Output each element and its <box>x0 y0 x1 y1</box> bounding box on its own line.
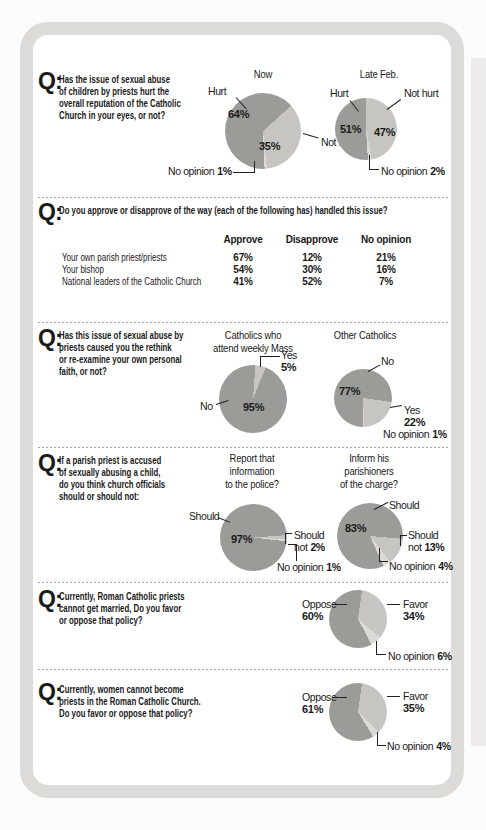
pie-mass-value-yes: 5% <box>281 361 296 373</box>
pie-latefeb-value-nothurt: 47% <box>374 126 395 138</box>
q4-text: If a parish priest is accused of sexuall… <box>59 455 165 503</box>
q3-line: Has this issue of sexual abuse by <box>59 330 183 342</box>
no-opinion-value: 1% <box>217 165 231 177</box>
pie-inform-title-line: Inform his <box>322 452 416 465</box>
pie-other-value-yes: 22% <box>404 416 425 428</box>
pie-latefeb-title: Late Feb. <box>352 68 406 81</box>
pie-now-value-hurt: 64% <box>228 108 249 120</box>
pie-other-label-no-opinion: No opinion1% <box>383 428 447 440</box>
no-opinion-value: 4% <box>438 560 452 572</box>
section-divider <box>38 447 450 448</box>
table-row-label: Your bishop <box>62 264 104 275</box>
no-opinion-text: No opinion <box>387 740 433 752</box>
q1-line: Has the issue of sexual abuse <box>59 74 181 86</box>
q5-line: or oppose that policy? <box>59 615 185 627</box>
pie-inform-value-should: 83% <box>345 522 366 534</box>
table-cell: 67% <box>213 252 273 263</box>
pie-mass-title-line: Catholics who <box>202 329 305 342</box>
pie-women-leader-no-opinion <box>377 732 386 746</box>
pie-inform-title-line: of the charge? <box>322 478 416 491</box>
pie-inform-title: Inform his parishioners of the charge? <box>322 452 416 491</box>
table-cell: 54% <box>213 264 273 275</box>
table-cell: 41% <box>213 276 273 287</box>
pie-married-value-favor: 34% <box>403 610 424 622</box>
pie-women-label-no-opinion: No opinion4% <box>387 740 451 752</box>
pie-women-value-favor: 35% <box>403 702 424 714</box>
pie-women-label-oppose: Oppose <box>302 691 336 703</box>
q4-line: If a parish priest is accused <box>59 455 165 467</box>
pie-mass-value-no: 95% <box>243 401 264 413</box>
no-opinion-value: 6% <box>437 650 451 662</box>
pie-inform-label-no-opinion: No opinion4% <box>389 560 453 572</box>
shouldnot-text: not <box>408 541 421 553</box>
q5-line: cannot get married, Do you favor <box>59 603 185 615</box>
pie-now-label-no-opinion: No opinion1% <box>168 165 232 177</box>
no-opinion-text: No opinion <box>277 561 323 573</box>
no-opinion-text: No opinion <box>388 650 434 662</box>
q1-line: Church in your eyes, or not? <box>59 110 181 122</box>
pie-other-title: Other Catholics <box>323 329 408 342</box>
pie-married-leader-oppose <box>333 604 347 605</box>
q2-line: Do you approve or disapprove of the way … <box>59 205 388 217</box>
table-cell: 52% <box>280 276 344 287</box>
pie-police-title: Report that information to the police? <box>203 452 302 491</box>
pie-married <box>329 590 387 648</box>
pie-latefeb-label-nothurt: Not hurt <box>404 87 438 99</box>
pie-now-value-nothurt: 35% <box>259 140 280 152</box>
pie-women-leader-favor <box>387 696 400 697</box>
section-divider <box>38 582 450 583</box>
table-cell: 7% <box>354 276 418 287</box>
table-cell: 21% <box>354 252 418 263</box>
q2-text: Do you approve or disapprove of the way … <box>59 205 388 217</box>
pie-women-value-oppose: 61% <box>302 703 323 715</box>
pie-latefeb-label-no-opinion: No opinion2% <box>381 165 445 177</box>
pie-mass <box>219 365 287 433</box>
pie-police-title-line: Report that <box>203 452 302 465</box>
pie-now <box>225 93 301 169</box>
pie-now-label-hurt: Hurt <box>208 85 226 97</box>
pie-latefeb-label-hurt: Hurt <box>330 87 348 99</box>
pie-women-label-favor: Favor <box>403 690 428 702</box>
pie-mass-label-no: No <box>200 400 213 412</box>
no-opinion-text: No opinion <box>381 165 427 177</box>
section-divider <box>38 322 450 323</box>
table-cell: 16% <box>354 264 418 275</box>
table-header-disapprove: Disapprove <box>280 234 344 245</box>
scan-shadow <box>471 58 486 746</box>
q3-text: Has this issue of sexual abuse by priest… <box>59 330 183 378</box>
table-row-label: Your own parish priest/priests <box>62 252 167 263</box>
q5-text: Currently, Roman Catholic priests cannot… <box>59 591 185 627</box>
no-opinion-value: 4% <box>436 740 450 752</box>
pie-now-title: Now <box>236 68 290 81</box>
table-cell: 30% <box>280 264 344 275</box>
pie-police-label-no-opinion: No opinion1% <box>277 561 341 573</box>
pie-latefeb-leader-no-opinion <box>369 155 379 170</box>
no-opinion-text: No opinion <box>383 428 429 440</box>
pie-police-title-line: to the police? <box>203 478 302 491</box>
pie-inform-leader-shouldnot <box>400 535 407 546</box>
q6-text: Currently, women cannot become priests i… <box>59 684 201 720</box>
pie-police-label-should: Should <box>189 510 219 522</box>
pie-mass-label-yes: Yes <box>281 349 297 361</box>
q3-line: priests caused you the rethink <box>59 342 183 354</box>
section-divider <box>38 197 450 198</box>
no-opinion-value: 1% <box>326 561 340 573</box>
pie-police-leader-shouldnot <box>285 533 292 544</box>
shouldnot-value: 2% <box>310 541 324 553</box>
q5-line: Currently, Roman Catholic priests <box>59 591 185 603</box>
pie-other <box>334 369 392 427</box>
q3-line: faith, or not? <box>59 366 183 378</box>
no-opinion-text: No opinion <box>389 560 435 572</box>
no-opinion-value: 2% <box>430 165 444 177</box>
pie-inform-title-line: parishioners <box>322 465 416 478</box>
pie-other-label-yes: Yes <box>404 404 420 416</box>
pie-police-leader-no-opinion <box>288 544 297 561</box>
pie-police-value-shouldnot: not2% <box>294 541 325 553</box>
q1-text: Has the issue of sexual abuse of childre… <box>59 74 181 122</box>
pie-married-leader-favor <box>387 604 400 605</box>
pie-police-title-line: information <box>203 465 302 478</box>
table-header-approve: Approve <box>213 234 273 245</box>
pie-inform-value-shouldnot: not13% <box>408 541 444 553</box>
q6-line: Do you favor or oppose that policy? <box>59 708 201 720</box>
poll-graphic: Q: Has the issue of sexual abuse of chil… <box>0 0 486 830</box>
